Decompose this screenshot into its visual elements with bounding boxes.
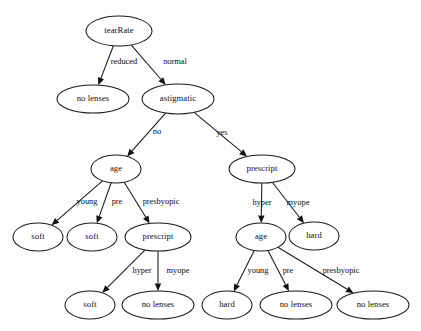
leaf-node[interactable]: hard xyxy=(202,291,252,319)
node-label: no lenses xyxy=(142,299,175,309)
leaf-node[interactable]: hard xyxy=(289,222,339,250)
decision-node[interactable]: tearRate xyxy=(86,16,152,46)
edge-label: myope xyxy=(287,198,310,207)
tree-canvas: reducednormalnoyesyoungprepresbyopichype… xyxy=(0,0,421,331)
edge-label: hyper xyxy=(132,266,151,275)
leaf-node[interactable]: no lenses xyxy=(122,291,194,319)
arrow-head-icon xyxy=(258,215,264,223)
node-label: no lenses xyxy=(280,299,313,309)
edge-label: presbyopic xyxy=(323,266,360,275)
leaf-node[interactable]: no lenses xyxy=(337,291,409,319)
leaf-node[interactable]: no lenses xyxy=(260,291,332,319)
edge-label: young xyxy=(248,266,270,275)
decision-node[interactable]: age xyxy=(236,223,286,251)
edge-label: presbyopic xyxy=(143,197,180,206)
node-label: age xyxy=(255,231,267,241)
tree-edge xyxy=(99,183,111,216)
edge-label: reduced xyxy=(111,57,138,66)
edge-label: young xyxy=(77,197,99,206)
decision-node[interactable]: astigmatic xyxy=(142,84,214,114)
node-label: prescript xyxy=(143,231,174,241)
edge-label: hyper xyxy=(252,198,271,207)
leaf-node[interactable]: soft xyxy=(13,223,63,251)
edge-label: no xyxy=(153,127,161,136)
edge-label: yes xyxy=(216,128,227,137)
node-label: soft xyxy=(83,299,97,309)
node-label: soft xyxy=(85,231,99,241)
decision-node[interactable]: prescript xyxy=(125,223,191,251)
decision-node[interactable]: age xyxy=(91,155,141,183)
node-label: no lenses xyxy=(357,299,390,309)
decision-tree-diagram: reducednormalnoyesyoungprepresbyopichype… xyxy=(0,0,421,331)
leaf-node[interactable]: soft xyxy=(65,291,115,319)
arrow-head-icon xyxy=(155,284,161,292)
node-label: hard xyxy=(219,299,235,309)
node-label: no lenses xyxy=(77,93,110,103)
arrow-head-icon xyxy=(98,77,104,85)
arrow-head-icon xyxy=(96,215,102,223)
node-label: soft xyxy=(31,231,45,241)
node-label: hard xyxy=(306,230,322,240)
leaf-node[interactable]: no lenses xyxy=(57,85,129,113)
node-label: astigmatic xyxy=(160,93,196,103)
node-label: age xyxy=(110,163,122,173)
arrow-head-icon xyxy=(297,215,304,223)
decision-node[interactable]: prescript xyxy=(229,155,295,183)
edge-label: myope xyxy=(167,266,190,275)
node-label: prescript xyxy=(247,163,278,173)
arrow-head-icon xyxy=(143,215,150,223)
edge-label: pre xyxy=(112,197,123,206)
node-label: tearRate xyxy=(104,25,134,35)
edge-label: pre xyxy=(283,266,294,275)
arrow-head-icon xyxy=(346,287,354,294)
leaf-node[interactable]: soft xyxy=(67,223,117,251)
edge-label: normal xyxy=(163,57,187,66)
